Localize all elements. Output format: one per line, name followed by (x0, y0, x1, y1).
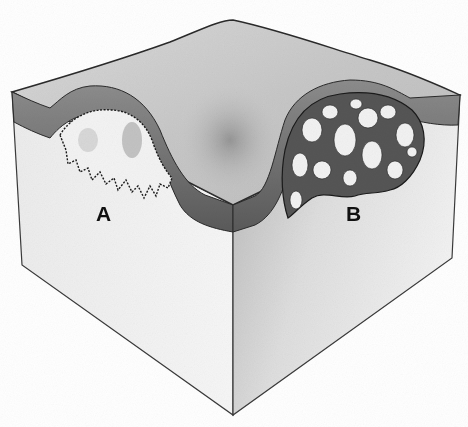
label-b: B (346, 203, 361, 224)
label-a: A (96, 203, 111, 224)
tissue-block-diagram (0, 0, 468, 427)
pencil-texture (0, 0, 468, 427)
